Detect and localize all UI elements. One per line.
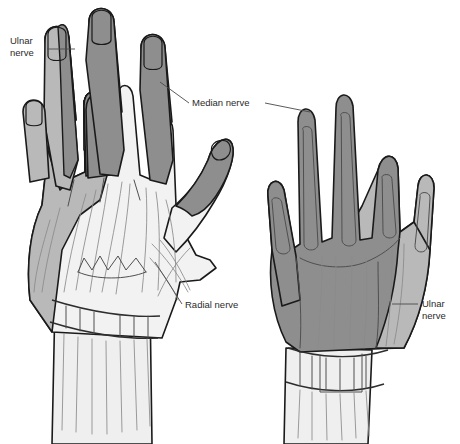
diagram-canvas: Ulnar nerve Median nerve Radial nerve Ul… — [0, 0, 460, 444]
ulnar-nerve-label-left-line2: nerve — [10, 47, 34, 58]
median-nerve-label: Median nerve — [192, 97, 250, 108]
nerve-distribution-diagram: Ulnar nerve Median nerve Radial nerve Ul… — [0, 0, 460, 444]
radial-nerve-label: Radial nerve — [185, 299, 238, 310]
ulnar-nerve-label-right-line1: Ulnar — [422, 298, 445, 309]
ulnar-nerve-label-left-line1: Ulnar — [10, 35, 33, 46]
right-hand-forearm — [284, 348, 372, 444]
ulnar-nerve-label-right-line2: nerve — [422, 310, 446, 321]
